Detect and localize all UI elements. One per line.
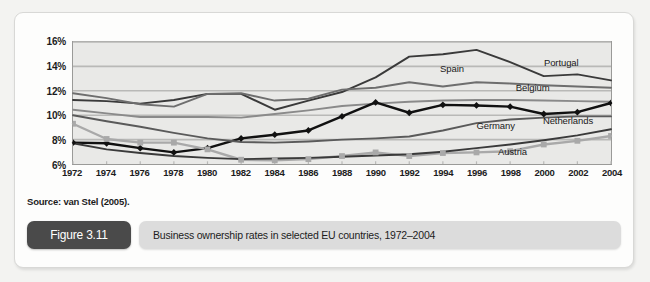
plot-frame (72, 41, 612, 165)
x-tick-label: 1978 (163, 167, 183, 178)
data-point-netherlands (507, 103, 514, 110)
data-point-austria (272, 157, 278, 163)
caption-bar: Business ownership rates in selected EU … (139, 221, 621, 249)
figure-card: 6%8%10%12%14%16% PortugalSpainBelgiumNet… (14, 12, 634, 268)
data-point-austria (474, 150, 480, 156)
series-label-portugal: Portugal (544, 57, 579, 68)
data-point-austria (238, 157, 244, 163)
data-point-austria (574, 138, 580, 144)
data-point-netherlands (406, 109, 413, 116)
x-tick-label: 2000 (535, 167, 555, 178)
data-point-netherlands (238, 135, 245, 142)
y-axis-labels: 6%8%10%12%14%16% (25, 41, 69, 165)
series-label-germany: Germany (476, 119, 514, 130)
x-tick-label: 1992 (400, 167, 420, 178)
caption-row: Figure 3.11 Business ownership rates in … (27, 221, 621, 249)
data-point-netherlands (73, 139, 76, 146)
data-point-netherlands (271, 131, 278, 138)
data-point-austria (73, 121, 76, 127)
x-tick-label: 2004 (602, 167, 622, 178)
markers-layer (73, 42, 611, 164)
data-point-austria (541, 142, 547, 148)
data-point-austria (440, 150, 446, 156)
data-point-netherlands (608, 100, 611, 107)
data-point-austria (339, 153, 345, 159)
y-tick-label: 10% (47, 110, 66, 121)
data-point-austria (608, 133, 611, 139)
source-note: Source: van Stel (2005). (27, 196, 129, 207)
x-tick-label: 1980 (197, 167, 217, 178)
data-point-netherlands (372, 99, 379, 106)
y-tick-label: 12% (47, 85, 66, 96)
data-point-netherlands (137, 145, 144, 152)
x-tick-label: 1996 (467, 167, 487, 178)
data-point-austria (137, 140, 143, 146)
y-tick-label: 16% (47, 36, 66, 47)
x-tick-label: 1982 (231, 167, 251, 178)
data-point-netherlands (305, 127, 312, 134)
data-point-austria (205, 146, 211, 152)
x-tick-label: 1990 (366, 167, 386, 178)
series-label-spain: Spain (440, 63, 464, 74)
figure-page: 6%8%10%12%14%16% PortugalSpainBelgiumNet… (0, 0, 650, 282)
data-point-netherlands (473, 102, 480, 109)
series-label-austria: Austria (498, 145, 527, 156)
x-tick-label: 1986 (298, 167, 318, 178)
data-point-netherlands (439, 101, 446, 108)
data-point-netherlands (170, 149, 177, 156)
caption-text: Business ownership rates in selected EU … (139, 229, 435, 241)
series-label-netherlands: Netherlands (543, 114, 593, 125)
data-point-austria (305, 156, 311, 162)
y-tick-label: 8% (52, 135, 66, 146)
x-tick-label: 1976 (130, 167, 150, 178)
x-tick-label: 1972 (62, 167, 82, 178)
data-point-austria (406, 153, 412, 159)
data-point-netherlands (339, 113, 346, 120)
x-tick-label: 1994 (433, 167, 453, 178)
x-tick-label: 1984 (265, 167, 285, 178)
x-tick-label: 1998 (501, 167, 521, 178)
x-tick-label: 1988 (332, 167, 352, 178)
x-axis-labels: 1972197419761978198019821984198619881990… (72, 167, 612, 185)
x-tick-label: 1974 (96, 167, 116, 178)
data-point-austria (373, 150, 379, 156)
chart-area: 6%8%10%12%14%16% PortugalSpainBelgiumNet… (25, 21, 625, 193)
x-tick-label: 2002 (568, 167, 588, 178)
y-tick-label: 14% (47, 60, 66, 71)
data-point-austria (104, 136, 110, 142)
series-label-belgium: Belgium (516, 81, 550, 92)
data-point-austria (171, 140, 177, 146)
figure-number-badge: Figure 3.11 (27, 221, 131, 249)
